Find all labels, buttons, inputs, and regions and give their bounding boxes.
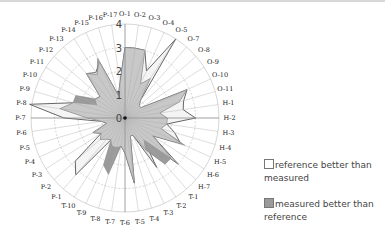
- axis-label: P-6: [16, 129, 26, 137]
- axis-label: P-8: [16, 99, 26, 107]
- ring-tick-label: 2: [116, 66, 122, 77]
- axis-label: O-11: [217, 85, 233, 93]
- legend-item-reference-better: reference better than measured: [264, 159, 384, 184]
- axis-label: T-5: [135, 218, 145, 226]
- axis-label: T-3: [164, 209, 174, 217]
- axis-label: T-8: [91, 215, 101, 223]
- axis-label: H-4: [219, 144, 231, 152]
- legend-text-line1: reference better than: [275, 160, 372, 170]
- axis-label: H-1: [223, 99, 235, 107]
- legend-text-line2: reference: [264, 212, 307, 222]
- ring-tick-label: 3: [116, 43, 122, 54]
- axis-label: O-7: [188, 35, 200, 43]
- axis-label: P-3: [32, 171, 42, 179]
- axis-label: T-2: [177, 202, 187, 210]
- ring-tick-label: 4: [116, 19, 122, 30]
- legend-swatch-white: [264, 159, 274, 169]
- axis-label: T-6: [120, 219, 130, 227]
- axis-label: P-13: [49, 35, 64, 43]
- axis-label: H-7: [198, 183, 210, 191]
- axis-label: O-5: [176, 26, 188, 34]
- axis-label: H-2: [224, 114, 236, 122]
- axis-label: H-6: [207, 171, 219, 179]
- axis-label: P-7: [15, 114, 25, 122]
- axis-label: O-3: [149, 14, 161, 22]
- axis-label: P-9: [19, 85, 29, 93]
- axis-label: T-10: [61, 202, 75, 210]
- axis-label: P-14: [61, 26, 76, 34]
- axis-label: H-3: [223, 129, 235, 137]
- axis-label: T-7: [105, 218, 115, 226]
- axis-label: O-8: [198, 46, 210, 54]
- axis-label: P-1: [51, 193, 61, 201]
- axis-label: P-11: [30, 58, 45, 66]
- axis-label: P-15: [74, 19, 89, 27]
- legend-text-line1: measured better than: [275, 199, 374, 209]
- legend-text-line2: measured: [264, 173, 309, 183]
- axis-label: P-4: [25, 158, 35, 166]
- legend-swatch-gray: [264, 198, 274, 208]
- legend-item-measured-better: measured better than reference: [264, 198, 384, 223]
- axis-label: O-4: [162, 19, 174, 27]
- ring-tick-label: 1: [116, 90, 122, 101]
- axis-label: O-1: [119, 10, 131, 18]
- axis-label: P-12: [39, 46, 54, 54]
- axis-label: T-4: [150, 215, 160, 223]
- axis-label: O-9: [207, 58, 219, 66]
- chart-series: [30, 39, 196, 183]
- axis-label: H-5: [214, 158, 226, 166]
- axis-label: P-16: [88, 14, 103, 22]
- radar-chart: O-1O-2O-3O-4O-5O-7O-8O-9O-10O-11H-1H-2H-…: [0, 0, 250, 234]
- axis-label: T-1: [189, 193, 199, 201]
- chart-spokes: [31, 24, 219, 212]
- axis-label: P-17: [103, 11, 118, 19]
- axis-label: T-9: [77, 209, 87, 217]
- axis-label: O-2: [134, 11, 146, 19]
- ring-tick-label: 0: [116, 113, 122, 124]
- axis-label: O-10: [212, 71, 228, 79]
- axis-label: P-10: [23, 71, 38, 79]
- axis-label: P-2: [41, 183, 51, 191]
- axis-label: P-5: [19, 144, 29, 152]
